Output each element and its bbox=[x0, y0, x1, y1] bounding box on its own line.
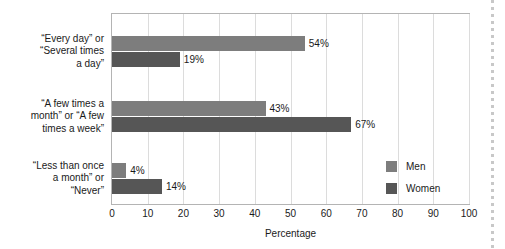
bar-women bbox=[112, 52, 180, 67]
category-label-line: a day” bbox=[0, 58, 104, 71]
x-tick-label: 20 bbox=[178, 208, 189, 219]
x-tick-label: 70 bbox=[356, 208, 367, 219]
x-tick-label: 100 bbox=[461, 208, 478, 219]
bar-value-label: 14% bbox=[162, 179, 186, 194]
x-tick-label: 90 bbox=[428, 208, 439, 219]
plot-area: 54%19%43%67%4%14% MenWomen bbox=[111, 13, 470, 205]
bar-value-label: 4% bbox=[126, 163, 144, 178]
category-label-line: “Never” bbox=[0, 185, 104, 198]
x-tick-label: 60 bbox=[321, 208, 332, 219]
bar-men bbox=[112, 36, 305, 51]
bar-value-label: 67% bbox=[351, 117, 375, 132]
bar-value-label: 54% bbox=[305, 36, 329, 51]
legend-swatch-icon bbox=[386, 183, 397, 194]
category-label-line: “Several times bbox=[0, 45, 104, 58]
bar-value-label: 43% bbox=[266, 101, 290, 116]
legend-item: Women bbox=[386, 179, 466, 197]
legend-label: Men bbox=[406, 161, 425, 172]
bar-women bbox=[112, 179, 162, 194]
x-tick-label: 10 bbox=[142, 208, 153, 219]
x-tick-label: 80 bbox=[392, 208, 403, 219]
x-axis-tick-labels: 0102030405060708090100 bbox=[111, 208, 470, 222]
category-group: 54%19% bbox=[112, 36, 469, 67]
category-group: 43%67% bbox=[112, 101, 469, 132]
gridline bbox=[469, 14, 470, 204]
horizontal-bar-chart: “Every day” or“Several timesa day”“A few… bbox=[0, 0, 505, 249]
bar-men bbox=[112, 163, 126, 178]
bar-men bbox=[112, 101, 266, 116]
category-label: “Less than oncea month” or“Never” bbox=[0, 160, 104, 198]
category-label-line: “A few times a bbox=[0, 98, 104, 111]
category-label-line: times a week” bbox=[0, 123, 104, 136]
x-tick-label: 30 bbox=[214, 208, 225, 219]
category-label: “A few times amonth” or “A fewtimes a we… bbox=[0, 98, 104, 136]
category-label: “Every day” or“Several timesa day” bbox=[0, 33, 104, 71]
chart-legend: MenWomen bbox=[386, 157, 466, 201]
bar-women bbox=[112, 117, 351, 132]
x-tick-label: 50 bbox=[285, 208, 296, 219]
x-axis-title: Percentage bbox=[111, 228, 470, 239]
category-label-line: “Every day” or bbox=[0, 33, 104, 46]
bar-value-label: 19% bbox=[180, 52, 204, 67]
legend-item: Men bbox=[386, 157, 466, 175]
x-tick-label: 0 bbox=[109, 208, 115, 219]
x-tick-label: 40 bbox=[249, 208, 260, 219]
page-edge-dotted-rule bbox=[491, 0, 494, 249]
legend-swatch-icon bbox=[386, 161, 397, 172]
category-label-line: month” or “A few bbox=[0, 110, 104, 123]
category-axis-labels: “Every day” or“Several timesa day”“A few… bbox=[0, 0, 107, 249]
category-label-line: “Less than once bbox=[0, 160, 104, 173]
category-label-line: a month” or bbox=[0, 172, 104, 185]
legend-label: Women bbox=[406, 183, 440, 194]
